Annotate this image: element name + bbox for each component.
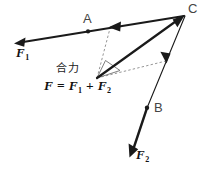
label-resultant-word: 合力 <box>56 63 79 74</box>
vector-f1-shaft <box>20 16 184 43</box>
label-point-a: A <box>83 12 92 25</box>
label-vector-f1: F1 <box>16 46 29 59</box>
label-point-c: C <box>188 2 197 15</box>
parallelogram-side-arrowhead-left <box>109 22 122 32</box>
equation-plus: + <box>86 78 94 93</box>
label-vector-f2: F2 <box>136 148 149 161</box>
vector-f2-shaft-lower <box>133 108 147 150</box>
equation-term1-subscript: 1 <box>78 86 82 95</box>
vector-f2 <box>129 16 185 158</box>
vector-resultant <box>97 15 185 78</box>
parallelogram-side-arrowhead-down <box>160 52 170 64</box>
force-parallelogram-diagram: A B C F1 F2 合力 F = F1 + F2 <box>0 0 205 169</box>
label-vector-f1-subscript: 1 <box>25 53 29 62</box>
label-vector-f1-symbol: F <box>16 45 25 60</box>
label-point-b: B <box>154 101 163 114</box>
equation-term1: F <box>69 78 78 93</box>
point-b-dot <box>145 106 149 110</box>
equation-resultant: F = F1 + F2 <box>44 79 111 93</box>
equation-term2-subscript: 2 <box>107 86 111 95</box>
equation-term2: F <box>98 78 107 93</box>
vector-f1 <box>14 16 184 47</box>
equation-equals: = <box>57 78 65 93</box>
equation-lhs: F <box>44 78 53 93</box>
label-vector-f2-symbol: F <box>136 147 145 162</box>
point-a-dot <box>86 29 90 33</box>
label-vector-f2-subscript: 2 <box>145 155 149 164</box>
